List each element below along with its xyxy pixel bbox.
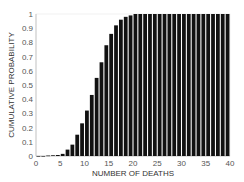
cumulative-probability-chart: 00.10.20.30.40.50.60.70.80.91 0510152025…	[0, 0, 244, 182]
bar	[41, 156, 45, 157]
bar	[46, 156, 50, 157]
y-tick-label: 0.8	[22, 38, 34, 47]
x-tick-label: 25	[153, 159, 162, 168]
x-tick-label: 10	[80, 159, 89, 168]
bar	[216, 14, 220, 156]
bar	[119, 20, 123, 156]
x-tick-label: 35	[201, 159, 210, 168]
bar	[70, 145, 74, 156]
bar	[158, 14, 162, 156]
bar	[192, 14, 196, 156]
bar	[129, 15, 133, 156]
y-tick-label: 0.2	[22, 124, 34, 133]
y-axis-label: CUMULATIVE PROBABILITY	[7, 32, 16, 138]
bar	[66, 150, 70, 156]
y-tick-label: 0.7	[22, 53, 34, 62]
bar	[138, 14, 142, 156]
bar	[134, 14, 138, 156]
bar	[182, 14, 186, 156]
bar	[85, 111, 89, 156]
bar	[51, 155, 55, 156]
x-axis-label: NUMBER OF DEATHS	[92, 169, 174, 178]
bar	[61, 154, 65, 156]
bar	[37, 156, 41, 157]
bar	[211, 14, 215, 156]
bar	[177, 14, 181, 156]
y-tick-label: 0.6	[22, 67, 34, 76]
bar	[153, 14, 157, 156]
bar	[104, 45, 108, 156]
y-tick-label: 0.9	[22, 24, 34, 33]
bar	[221, 14, 225, 156]
bar	[114, 25, 118, 156]
x-tick-label: 15	[104, 159, 113, 168]
bar	[148, 14, 152, 156]
x-tick-label: 0	[34, 159, 39, 168]
x-tick-label: 30	[177, 159, 186, 168]
bar	[201, 14, 205, 156]
x-tick-label: 5	[58, 159, 63, 168]
y-tick-label: 0.1	[22, 138, 34, 147]
x-axis-ticks: 0510152025303540	[34, 159, 235, 168]
x-tick-label: 20	[129, 159, 138, 168]
plot-area	[36, 14, 230, 156]
y-tick-label: 0.3	[22, 109, 34, 118]
bar	[167, 14, 171, 156]
bar	[187, 14, 191, 156]
y-tick-label: 0.5	[22, 81, 34, 90]
x-tick-label: 40	[226, 159, 235, 168]
bar	[56, 155, 60, 156]
bar	[80, 123, 84, 156]
bar	[90, 95, 94, 156]
y-axis-ticks: 00.10.20.30.40.50.60.70.80.91	[22, 10, 34, 161]
bar	[172, 14, 176, 156]
y-tick-label: 0.4	[22, 95, 34, 104]
y-tick-label: 1	[29, 10, 34, 19]
bar	[109, 34, 113, 156]
bar	[206, 14, 210, 156]
bar	[100, 62, 104, 156]
bar	[197, 14, 201, 156]
bar	[143, 14, 147, 156]
bar	[95, 78, 99, 156]
bar	[226, 14, 230, 156]
bar	[163, 14, 167, 156]
bar	[75, 135, 79, 156]
bar	[124, 17, 128, 156]
